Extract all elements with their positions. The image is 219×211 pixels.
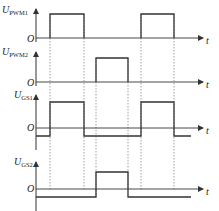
label-ugs2: UGS2: [14, 156, 33, 168]
origin-label-pwm1: O: [27, 33, 34, 44]
origin-label-gs1: O: [27, 122, 34, 133]
t-label-pwm1: t: [206, 35, 209, 46]
t-label-pwm2: t: [206, 79, 209, 90]
label-upwm1: UPWM1: [2, 4, 28, 16]
waveform-pwm1-pulse1: [50, 14, 84, 38]
waveform-gs1: [36, 102, 191, 136]
waveform-gs2: [36, 172, 191, 197]
dashed-time-markers: [50, 14, 174, 197]
origin-label-pwm2: O: [27, 77, 34, 88]
t-label-gs2: t: [206, 186, 209, 197]
origin-label-gs2: O: [27, 183, 34, 194]
waveform-pwm1-pulse2: [141, 14, 174, 38]
waveform-pwm2-pulse: [96, 58, 128, 82]
label-upwm2: UPWM2: [2, 46, 28, 58]
timing-diagram: UPWM1 UPWM2 UGS1 UGS2 O O O O t t t t: [0, 0, 219, 211]
t-label-gs1: t: [206, 125, 209, 136]
label-ugs1: UGS1: [14, 89, 33, 101]
